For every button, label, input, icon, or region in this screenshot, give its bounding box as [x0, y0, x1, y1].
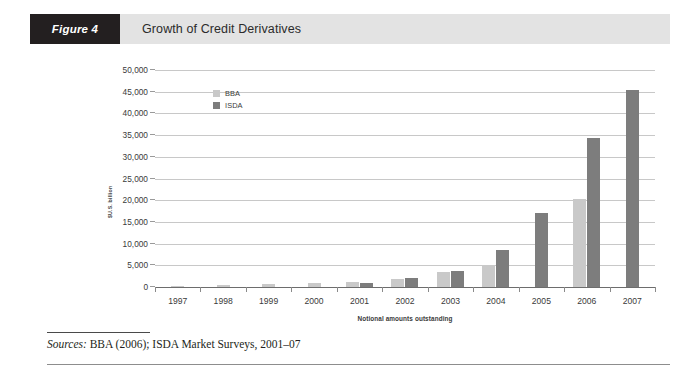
bar-isda-2007	[626, 90, 639, 287]
bar-bba-1999	[262, 284, 275, 287]
x-axis-tick-label-1999: 1999	[259, 296, 278, 306]
figure-header: Figure 4 Growth of Credit Derivatives	[30, 14, 670, 44]
x-axis-tick-mark	[382, 287, 383, 292]
x-axis-tick-label-2003: 2003	[441, 296, 460, 306]
x-axis-tick-mark	[655, 287, 656, 292]
legend-label: ISDA	[225, 101, 243, 110]
bar-group	[473, 70, 518, 287]
x-axis-tick-label-1998: 1998	[214, 296, 233, 306]
bar-group	[291, 70, 336, 287]
x-axis-tick-mark	[200, 287, 201, 292]
bar-bba-2002	[391, 279, 404, 287]
figure-number-tag: Figure 4	[30, 14, 120, 44]
y-axis-tick-label: 50,000	[123, 65, 148, 75]
x-axis-tick-mark	[291, 287, 292, 292]
bar-bba-2004	[482, 265, 495, 287]
y-axis-tick-label: 30,000	[123, 152, 148, 162]
x-axis-tick-mark	[428, 287, 429, 292]
x-axis-tick-label-2006: 2006	[577, 296, 596, 306]
y-axis-tick-label: 45,000	[123, 87, 148, 97]
x-axis-tick-mark	[610, 287, 611, 292]
bar-isda-2003	[451, 271, 464, 287]
bar-isda-2005	[535, 213, 548, 287]
x-axis-baseline	[155, 287, 655, 288]
legend-item-isda: ISDA	[213, 101, 243, 110]
y-axis-tick-label: 10,000	[123, 239, 148, 249]
bar-group	[519, 70, 564, 287]
y-axis-tick-label: 20,000	[123, 195, 148, 205]
y-axis-tick-label: 40,000	[123, 108, 148, 118]
bar-bba-2000	[308, 283, 321, 287]
bar-group	[564, 70, 609, 287]
x-axis-tick-label-2004: 2004	[486, 296, 505, 306]
bar-bba-1998	[217, 285, 230, 287]
y-axis-tick-label: 25,000	[123, 174, 148, 184]
chart-container: $U.S. billion 05,00010,00015,00020,00025…	[0, 52, 696, 322]
bar-group	[610, 70, 655, 287]
x-axis-tick-mark	[564, 287, 565, 292]
bar-group	[155, 70, 200, 287]
bar-isda-2004	[496, 250, 509, 287]
x-axis-tick-mark	[473, 287, 474, 292]
bar-group	[246, 70, 291, 287]
x-axis-title: Notional amounts outstanding	[155, 315, 655, 322]
x-axis-tick-label-2002: 2002	[395, 296, 414, 306]
y-axis-title: $U.S. billion	[107, 148, 113, 218]
source-label: Sources:	[47, 338, 87, 350]
bar-group	[337, 70, 382, 287]
chart-legend: BBAISDA	[213, 89, 243, 110]
bottom-divider	[47, 364, 670, 365]
bar-bba-1997	[171, 286, 184, 287]
bar-group	[382, 70, 427, 287]
bar-group	[428, 70, 473, 287]
source-note: Sources: BBA (2006); ISDA Market Surveys…	[47, 338, 301, 350]
legend-swatch-icon	[213, 90, 220, 97]
x-axis-tick-mark	[246, 287, 247, 292]
x-axis-tick-label-2005: 2005	[532, 296, 551, 306]
x-axis-tick-label-2001: 2001	[350, 296, 369, 306]
bar-isda-2001	[360, 283, 373, 287]
y-axis-tick-label: 35,000	[123, 130, 148, 140]
y-axis-tick-label: 0	[143, 282, 148, 292]
bar-isda-2002	[405, 278, 418, 288]
x-axis-tick-mark	[519, 287, 520, 292]
y-axis-tick-label: 15,000	[123, 217, 148, 227]
figure-title: Growth of Credit Derivatives	[120, 14, 670, 44]
x-axis-tick-mark	[155, 287, 156, 292]
bar-bba-2001	[346, 282, 359, 287]
bar-isda-2006	[587, 138, 600, 287]
bar-bba-2003	[437, 272, 450, 287]
source-divider	[47, 332, 150, 333]
source-text: BBA (2006); ISDA Market Surveys, 2001–07	[87, 338, 301, 350]
x-axis-tick-mark	[337, 287, 338, 292]
bar-bba-2006	[573, 199, 586, 287]
x-axis-tick-label-2007: 2007	[623, 296, 642, 306]
legend-label: BBA	[225, 89, 240, 98]
x-axis-tick-label-2000: 2000	[305, 296, 324, 306]
y-axis-tick-label: 5,000	[127, 260, 148, 270]
legend-swatch-icon	[213, 102, 220, 109]
x-axis-tick-label-1997: 1997	[168, 296, 187, 306]
legend-item-bba: BBA	[213, 89, 243, 98]
